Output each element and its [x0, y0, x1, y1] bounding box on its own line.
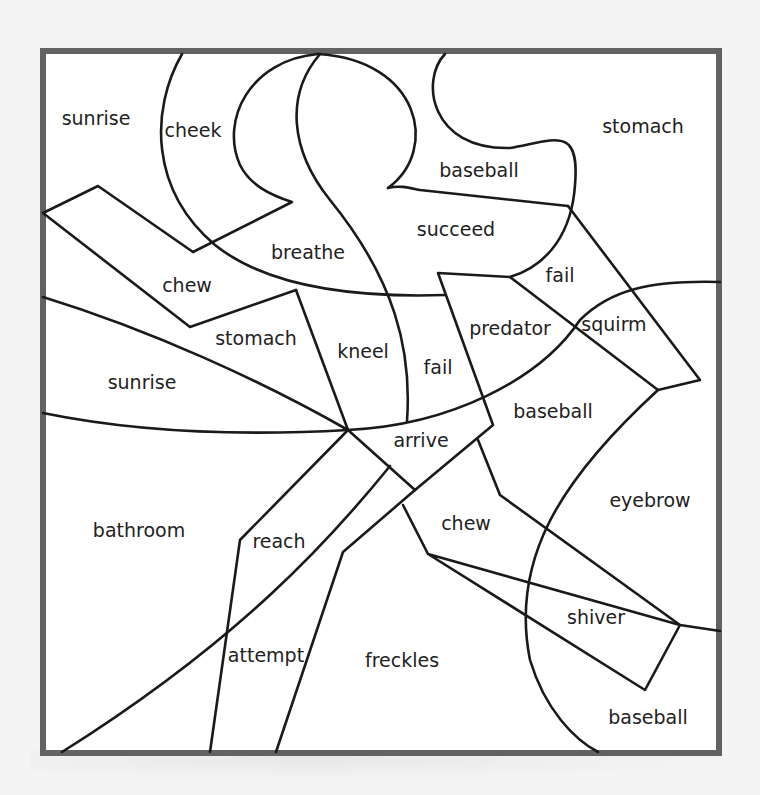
region-label-baseball: baseball — [608, 708, 688, 727]
region-label-predator: predator — [469, 319, 551, 338]
region-label-bathroom: bathroom — [93, 521, 185, 540]
region-label-stomach: stomach — [602, 117, 684, 136]
region-label-shiver: shiver — [567, 608, 625, 627]
region-border-chew-upper-quad — [43, 186, 193, 252]
region-border-kneel-right-curve — [297, 54, 408, 421]
region-label-sunrise: sunrise — [108, 373, 177, 392]
region-label-baseball: baseball — [439, 161, 519, 180]
region-border-breathe-s-curve — [193, 54, 318, 252]
region-border-succeed-lobe — [318, 54, 416, 188]
region-label-freckles: freckles — [365, 651, 439, 670]
region-label-sunrise: sunrise — [62, 109, 131, 128]
region-label-kneel: kneel — [337, 342, 389, 361]
region-label-arrive: arrive — [393, 431, 448, 450]
region-label-fail: fail — [546, 266, 575, 285]
region-label-reach: reach — [252, 532, 305, 551]
region-border-reach-left — [210, 430, 348, 752]
region-border-sunrise-upper-edge — [43, 297, 348, 430]
region-label-squirm: squirm — [581, 315, 646, 334]
region-label-eyebrow: eyebrow — [609, 491, 690, 510]
region-border-baseball-bottom-edge — [388, 187, 568, 206]
region-label-stomach: stomach — [215, 329, 297, 348]
region-label-fail: fail — [424, 358, 453, 377]
region-label-cheek: cheek — [165, 121, 222, 140]
region-border-eyebrow-arc — [526, 390, 658, 752]
region-label-chew: chew — [162, 276, 212, 295]
region-border-attempt-diag — [62, 466, 390, 752]
region-label-chew: chew — [441, 514, 491, 533]
region-label-breathe: breathe — [271, 243, 345, 262]
region-label-baseball: baseball — [513, 402, 593, 421]
region-label-attempt: attempt — [228, 646, 304, 665]
region-label-succeed: succeed — [417, 220, 495, 239]
